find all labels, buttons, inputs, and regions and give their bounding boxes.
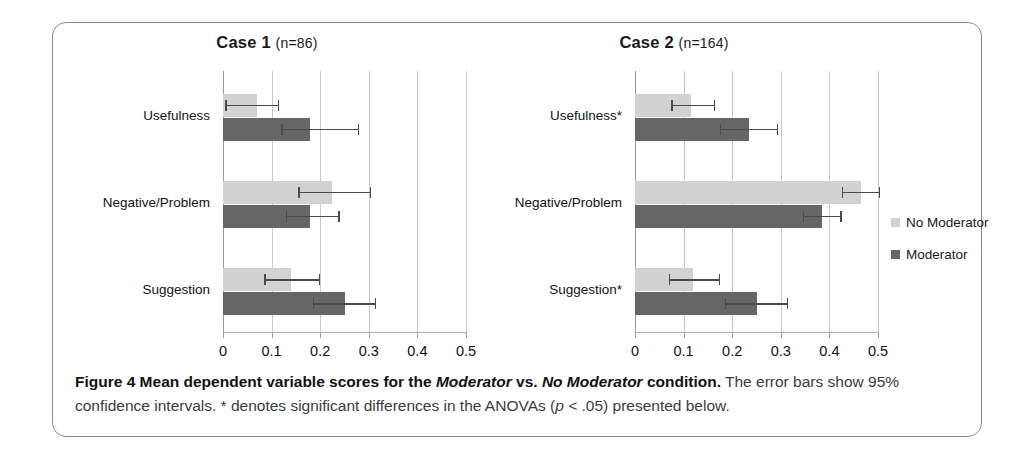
- figure-caption: Figure 4 Mean dependent variable scores …: [75, 370, 965, 418]
- error-bar: [671, 105, 715, 106]
- caption-italic-p: p: [555, 397, 564, 414]
- error-bar-cap-low: [725, 298, 726, 309]
- x-axis-tick-label: 0.4: [407, 343, 427, 359]
- caption-italic-no-moderator: No Moderator: [542, 373, 643, 390]
- chart-title-text: Case 1: [216, 33, 270, 51]
- x-axis-tick-label: 0.1: [674, 343, 694, 359]
- x-axis-tick: [635, 333, 636, 338]
- error-bar: [281, 129, 359, 130]
- caption-bold-2: vs.: [512, 373, 542, 390]
- error-bar-cap-high: [714, 100, 715, 111]
- caption-figure-number: Figure 4: [75, 373, 135, 390]
- error-bar-cap-low: [669, 274, 670, 285]
- error-bar: [298, 192, 371, 193]
- error-bar-cap-low: [286, 211, 287, 222]
- error-bar-cap-low: [720, 124, 721, 135]
- bar-moderator: [635, 205, 822, 228]
- error-bar-cap-high: [319, 274, 320, 285]
- error-bar-cap-low: [803, 211, 804, 222]
- x-axis-tick-label: 0.2: [310, 343, 330, 359]
- x-axis-tick: [417, 333, 418, 338]
- category-row: Negative/Problem: [223, 158, 466, 245]
- chart-title-case-1: Case 1 (n=86): [71, 33, 501, 52]
- x-axis-tick-label: 0.2: [722, 343, 742, 359]
- chart-title-case-2: Case 2 (n=164): [493, 33, 983, 52]
- chart-panel-case-2: Case 2 (n=164) 00.10.20.30.40.5Usefulnes…: [493, 23, 983, 368]
- chart-legend: No Moderator Moderator: [891, 215, 989, 279]
- error-bar: [286, 216, 339, 217]
- x-axis-tick-label: 0.3: [359, 343, 379, 359]
- legend-swatch-moderator: [891, 250, 900, 259]
- error-bar: [725, 303, 788, 304]
- chart-panel-case-1: Case 1 (n=86) 00.10.20.30.40.5Usefulness…: [71, 23, 501, 368]
- figure-container: Case 1 (n=86) 00.10.20.30.40.5Usefulness…: [52, 22, 982, 437]
- gridline: [878, 71, 879, 333]
- legend-item-no-moderator: No Moderator: [891, 215, 989, 230]
- caption-bold-1: Mean dependent variable scores for the: [135, 373, 436, 390]
- error-bar: [720, 129, 778, 130]
- category-row: Suggestion*: [635, 246, 878, 333]
- error-bar: [669, 279, 720, 280]
- chart-title-sample-size: (n=86): [276, 35, 318, 51]
- error-bar: [842, 192, 881, 193]
- x-axis-tick: [223, 333, 224, 338]
- error-bar: [803, 216, 842, 217]
- category-label: Suggestion: [142, 282, 210, 297]
- error-bar-cap-high: [840, 211, 841, 222]
- category-row: Suggestion: [223, 246, 466, 333]
- x-axis-tick-label: 0.3: [771, 343, 791, 359]
- caption-bold-3: condition.: [643, 373, 721, 390]
- x-axis-tick: [272, 333, 273, 338]
- error-bar-cap-high: [777, 124, 778, 135]
- x-axis-tick: [466, 333, 467, 338]
- x-axis-tick-label: 0: [631, 343, 639, 359]
- x-axis-tick-label: 0.5: [868, 343, 888, 359]
- legend-label-moderator: Moderator: [906, 247, 968, 262]
- gridline: [466, 71, 467, 333]
- legend-swatch-no-moderator: [891, 218, 900, 227]
- error-bar-cap-high: [278, 100, 279, 111]
- error-bar-cap-high: [719, 274, 720, 285]
- error-bar-cap-low: [281, 124, 282, 135]
- category-label: Usefulness: [143, 107, 210, 122]
- caption-rest-2: < .05) presented below.: [564, 397, 730, 414]
- category-label: Negative/Problem: [515, 194, 622, 209]
- x-axis-tick: [684, 333, 685, 338]
- x-axis-tick: [320, 333, 321, 338]
- x-axis-tick-label: 0.4: [819, 343, 839, 359]
- error-bar-cap-low: [298, 187, 299, 198]
- error-bar-cap-low: [842, 187, 843, 198]
- plot-area-case-1: 00.10.20.30.40.5UsefulnessNegative/Probl…: [223, 71, 466, 333]
- error-bar-cap-low: [671, 100, 672, 111]
- x-axis-tick-label: 0.5: [456, 343, 476, 359]
- error-bar-cap-high: [879, 187, 880, 198]
- error-bar-cap-high: [375, 298, 376, 309]
- category-row: Usefulness*: [635, 71, 878, 158]
- category-row: Negative/Problem: [635, 158, 878, 245]
- x-axis-tick-label: 0.1: [262, 343, 282, 359]
- x-axis-tick: [878, 333, 879, 338]
- legend-label-no-moderator: No Moderator: [906, 215, 989, 230]
- error-bar: [313, 303, 376, 304]
- chart-title-sample-size: (n=164): [679, 35, 729, 51]
- error-bar-cap-low: [225, 100, 226, 111]
- category-label: Suggestion*: [549, 282, 622, 297]
- x-axis-tick: [732, 333, 733, 338]
- error-bar-cap-low: [264, 274, 265, 285]
- error-bar: [225, 105, 278, 106]
- chart-title-text: Case 2: [619, 33, 673, 51]
- x-axis-tick: [781, 333, 782, 338]
- charts-area: Case 1 (n=86) 00.10.20.30.40.5Usefulness…: [53, 23, 983, 368]
- error-bar-cap-high: [787, 298, 788, 309]
- error-bar-cap-low: [313, 298, 314, 309]
- error-bar-cap-high: [358, 124, 359, 135]
- error-bar-cap-high: [338, 211, 339, 222]
- plot-area-case-2: 00.10.20.30.40.5Usefulness*Negative/Prob…: [635, 71, 878, 333]
- legend-item-moderator: Moderator: [891, 247, 989, 262]
- category-label: Negative/Problem: [103, 194, 210, 209]
- caption-italic-moderator: Moderator: [436, 373, 512, 390]
- x-axis-tick: [369, 333, 370, 338]
- x-axis-tick: [829, 333, 830, 338]
- error-bar-cap-high: [370, 187, 371, 198]
- category-label: Usefulness*: [550, 107, 622, 122]
